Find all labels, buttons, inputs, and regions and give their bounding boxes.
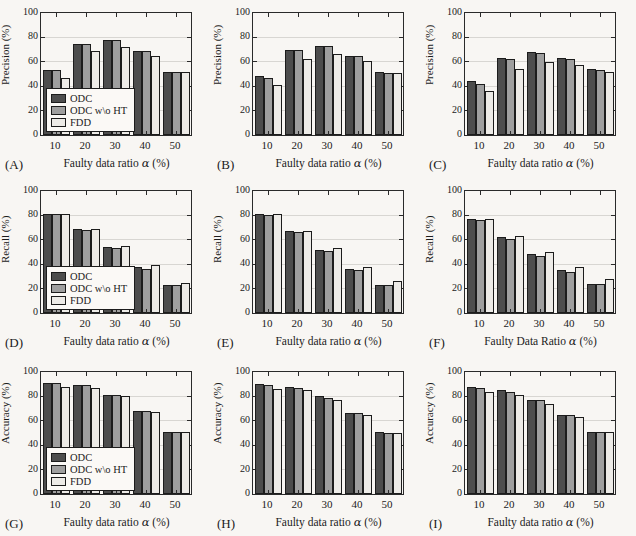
legend: ODCODC w\o HTFDD [46,266,135,310]
x-tick-labels: 1020304050 [40,317,193,331]
y-tick-mark [399,239,403,240]
legend-label: ODC [70,93,92,104]
bar-odc [467,219,476,313]
y-axis-label: Accuracy (%) [423,432,435,444]
bar-odc-w-o-ht [142,51,151,135]
x-tick-mark [510,13,511,17]
bar-odc-w-o-ht [506,239,515,313]
x-tick-label: 40 [140,498,151,510]
y-tick-label: 40 [14,80,38,90]
x-tick-label: 50 [382,498,393,510]
bar-odc-w-o-ht [142,269,151,313]
x-tick-mark [268,490,269,494]
x-tick-mark [570,13,571,17]
x-tick-labels: 1020304050 [464,317,617,331]
chart-panel-g: Accuracy (%) ODCODC w\o HTFDD 1020304050… [0,359,212,536]
y-tick-label: 20 [14,464,38,474]
legend-label: ODC w\o HT [70,105,127,116]
x-tick-mark [86,13,87,17]
bar-odc-w-o-ht [294,232,303,313]
y-tick-label: 80 [226,209,250,219]
legend-swatch [51,296,66,305]
bar-fdd [393,73,402,135]
bar-odc-w-o-ht [354,270,363,313]
bar-fdd [363,415,372,494]
x-tick-mark [600,191,601,195]
x-tick-label: 40 [352,317,363,329]
figure-3x3-bar-charts: Precision (%) ODCODC w\o HTFDD 102030405… [0,0,636,536]
y-tick-label: 60 [226,56,250,66]
x-tick-label: 40 [140,317,151,329]
y-tick-label: 0 [226,307,250,317]
bar-fdd [181,432,190,494]
y-tick-label: 40 [438,439,462,449]
x-tick-mark [298,490,299,494]
y-tick-mark [611,215,615,216]
x-tick-mark [480,131,481,135]
legend-swatch [51,106,66,115]
x-tick-mark [480,13,481,17]
y-tick-label: 0 [226,488,250,498]
bar-odc [163,285,172,313]
bar-odc-w-o-ht [384,433,393,494]
y-tick-mark [399,61,403,62]
bar-fdd [303,59,312,135]
x-tick-mark [388,490,389,494]
y-tick-label: 100 [14,185,38,195]
y-axis-label: Precision (%) [423,73,435,85]
y-tick-mark [399,215,403,216]
panel-letter: (B) [217,157,234,173]
legend-swatch [51,94,66,103]
x-tick-mark [600,490,601,494]
bar-odc-w-o-ht [324,398,333,494]
y-tick-mark [187,61,191,62]
x-axis-label: Faulty data ratio α (%) [252,515,405,529]
y-tick-label: 100 [14,366,38,376]
y-tick-label: 20 [226,464,250,474]
x-tick-mark [56,372,57,376]
x-tick-label: 20 [80,317,91,329]
bar-odc [315,396,324,494]
y-tick-label: 60 [14,415,38,425]
x-tick-mark [358,309,359,313]
y-tick-label: 60 [438,56,462,66]
panel-letter: (A) [5,157,23,173]
bar-fdd [545,62,554,135]
bar-fdd [605,279,614,313]
x-tick-label: 10 [474,498,485,510]
y-tick-label: 80 [226,390,250,400]
y-tick-mark [611,37,615,38]
x-tick-label: 20 [80,498,91,510]
x-tick-label: 30 [534,498,545,510]
panel-letter: (E) [217,335,234,351]
x-tick-label: 10 [50,498,61,510]
x-axis-label: Faulty data ratio α (%) [464,515,617,529]
x-tick-mark [600,372,601,376]
panel-letter: (C) [429,157,446,173]
x-tick-label: 50 [594,498,605,510]
x-tick-mark [146,131,147,135]
bar-odc [587,69,596,135]
x-tick-mark [56,191,57,195]
legend-label: FDD [70,117,91,128]
bar-odc-w-o-ht [142,411,151,494]
plot-area [464,12,616,136]
bar-fdd [485,219,494,313]
bar-odc [557,58,566,135]
x-tick-mark [388,191,389,195]
y-tick-label: 40 [14,439,38,449]
x-tick-label: 10 [474,317,485,329]
legend-row: FDD [51,116,127,128]
bar-fdd [181,72,190,135]
legend-label: ODC [70,452,92,463]
x-tick-label: 30 [534,139,545,151]
x-axis-label: Faulty data ratio α (%) [464,156,617,170]
y-tick-label: 20 [438,464,462,474]
legend-label: ODC w\o HT [70,464,127,475]
x-tick-label: 40 [564,317,575,329]
y-tick-label: 100 [438,7,462,17]
bar-odc [315,46,324,135]
y-tick-mark [611,239,615,240]
y-tick-label: 40 [226,80,250,90]
x-axis-label: Faulty data ratio α (%) [40,156,193,170]
